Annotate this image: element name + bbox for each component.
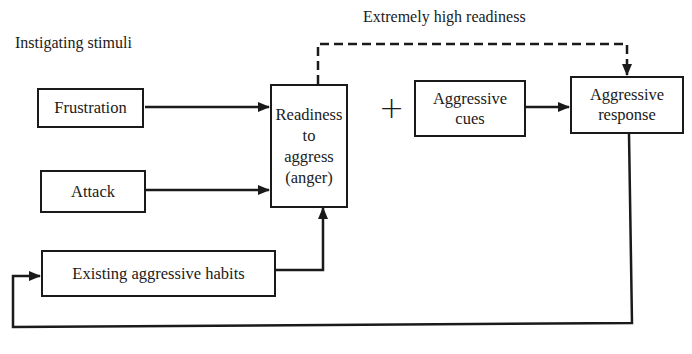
aggressive-response-box: Aggressive response [570,76,684,134]
existing-habits-box: Existing aggressive habits [41,250,276,297]
existing-habits-text: Existing aggressive habits [72,264,244,284]
frustration-text: Frustration [54,98,126,118]
readiness-box: Readiness to aggress (anger) [270,84,348,208]
instigating-stimuli-label: Instigating stimuli [15,34,132,52]
plus-sign: + [379,93,404,123]
readiness-line-2: to [303,125,316,146]
readiness-line-3: aggress [284,146,333,167]
frustration-box: Frustration [37,88,144,128]
readiness-line-4: (anger) [285,167,333,188]
aggressive-response-line-2: response [598,105,656,125]
attack-text: Attack [71,182,115,202]
arrow-habits-to-readiness [276,208,323,270]
aggressive-cues-line-2: cues [455,109,484,129]
aggressive-response-line-1: Aggressive [590,85,664,105]
extremely-high-readiness-label: Extremely high readiness [363,8,526,26]
aggressive-cues-box: Aggressive cues [414,80,526,137]
aggressive-cues-line-1: Aggressive [433,89,507,109]
readiness-line-1: Readiness [276,104,343,125]
attack-box: Attack [40,170,146,213]
